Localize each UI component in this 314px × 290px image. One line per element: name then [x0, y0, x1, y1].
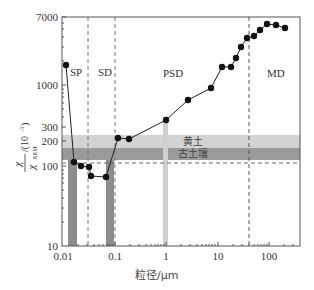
- y-axis-label: χ χ ARM /(10 -3 ): [11, 123, 38, 172]
- svg-text:/(10: /(10: [19, 136, 31, 152]
- region-label-sd: SD: [98, 66, 112, 78]
- region-label-psd: PSD: [163, 67, 183, 79]
- y-tick-100: 100: [42, 160, 59, 172]
- x-tick-100: 100: [261, 250, 278, 262]
- chart: 7000 1000 300 200 100 10 0.01 0.1 1 10 1…: [0, 0, 314, 290]
- x-tick-0.1: 0.1: [108, 250, 122, 262]
- svg-text:χ: χ: [11, 160, 23, 167]
- svg-text:-3: -3: [19, 127, 25, 132]
- band-loess: [62, 135, 300, 148]
- svg-text:χ: χ: [25, 163, 37, 170]
- region-label-md: MD: [267, 67, 285, 79]
- x-tick-10: 10: [213, 250, 225, 262]
- band-label-paleosol: 古土壤: [178, 147, 208, 159]
- y-tick-1000: 1000: [36, 79, 59, 91]
- x-tick-1: 1: [163, 250, 169, 262]
- vertical-bar-sp: [68, 160, 77, 246]
- plot-frame: [62, 17, 300, 246]
- y-tick-200: 200: [42, 135, 59, 147]
- vertical-bar-1um: [163, 120, 168, 246]
- y-tick-300: 300: [42, 121, 59, 133]
- band-label-loess: 黄土: [183, 135, 203, 147]
- x-axis-label: 粒径/μm: [135, 266, 178, 282]
- y-axis-ticks: [62, 17, 66, 222]
- region-label-sp: SP: [70, 66, 82, 78]
- svg-text:): ): [19, 123, 31, 126]
- x-tick-0.01: 0.01: [53, 250, 72, 262]
- y-tick-7000: 7000: [36, 11, 59, 23]
- svg-text:ARM: ARM: [32, 146, 38, 160]
